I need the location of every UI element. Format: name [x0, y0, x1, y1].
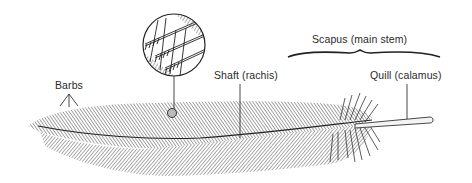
- barbs-pointer: [60, 94, 78, 107]
- label-barbs: Barbs: [55, 80, 83, 91]
- label-scapus: Scapus (main stem): [312, 34, 407, 45]
- feather-illustration: [0, 0, 472, 183]
- feather-diagram: Barbs Shaft (rachis) Scapus (main stem) …: [0, 0, 472, 183]
- label-quill: Quill (calamus): [370, 70, 442, 81]
- label-shaft: Shaft (rachis): [214, 70, 278, 81]
- inset-magnifier: [140, 10, 210, 118]
- scapus-brace: [288, 50, 440, 57]
